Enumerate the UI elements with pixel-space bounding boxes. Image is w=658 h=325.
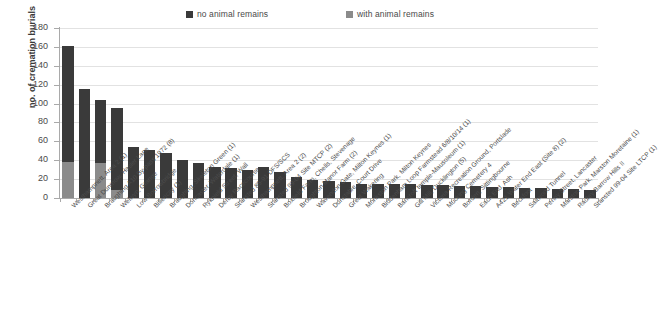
y-axis-tick-label: 40 <box>14 154 48 164</box>
y-axis-tick-label: 20 <box>14 173 48 183</box>
legend-entry-with-animal-remains: with animal remains <box>346 7 434 21</box>
legend-entry-no-animal-remains: no animal remains <box>186 7 268 21</box>
y-axis-tick-label: 0 <box>14 192 48 202</box>
x-axis-category-label: Stansted 99-04 Site LTCP (1) <box>592 143 658 209</box>
bar-segment-no-animal-remains <box>79 89 90 198</box>
legend-swatch-with-animal-remains <box>346 11 353 18</box>
bar <box>79 89 90 198</box>
y-axis-tick-label: 160 <box>14 41 48 51</box>
bar-segment-with-animal-remains <box>62 162 73 198</box>
chart-legend: no animal remains with animal remains <box>186 7 526 21</box>
y-axis-tick-label: 100 <box>14 98 48 108</box>
legend-label-with-animal-remains: with animal remains <box>357 9 434 19</box>
y-axis-tick-label: 60 <box>14 135 48 145</box>
y-axis-tick-label: 120 <box>14 79 48 89</box>
y-axis-tick-label: 140 <box>14 60 48 70</box>
bar-segment-no-animal-remains <box>62 46 73 162</box>
bar-segment-no-animal-remains <box>95 100 106 163</box>
bar <box>62 46 73 198</box>
legend-swatch-no-animal-remains <box>186 11 193 18</box>
x-axis-category-labels: Westhampnett, Area 2 (1)Great Dunmow, Ha… <box>0 202 606 325</box>
legend-label-no-animal-remains: no animal remains <box>197 9 268 19</box>
y-axis-tick-label: 80 <box>14 116 48 126</box>
y-axis-tick-label: 180 <box>14 22 48 32</box>
